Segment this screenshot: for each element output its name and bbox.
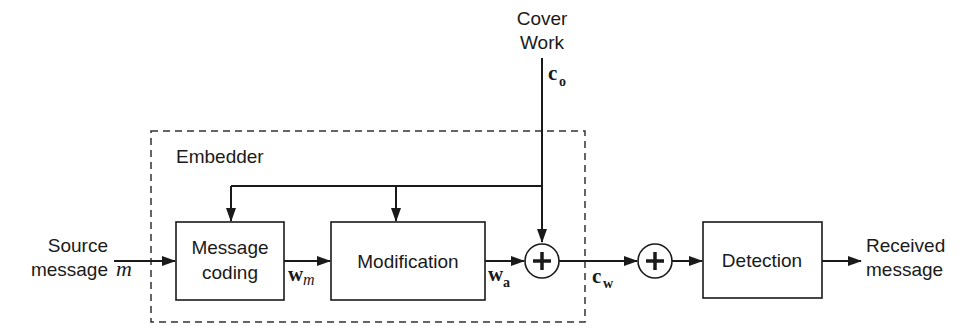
- noise-adder: [638, 244, 672, 278]
- svg-text:o: o: [559, 74, 566, 89]
- svg-text:Received: Received: [866, 235, 945, 256]
- embedder-label: Embedder: [176, 146, 264, 167]
- received-message-label: Received message: [866, 235, 945, 280]
- modification-block: Modification: [331, 222, 485, 300]
- svg-text:Work: Work: [520, 32, 564, 53]
- svg-text:coding: coding: [202, 262, 258, 283]
- cw-symbol: c w: [592, 264, 614, 291]
- svg-text:m: m: [303, 271, 315, 288]
- svg-text:c: c: [592, 264, 601, 288]
- detection-block: Detection: [703, 222, 822, 298]
- embedding-adder: [525, 244, 559, 278]
- wa-symbol: w a: [488, 262, 510, 290]
- source-message-label: Source message: [31, 235, 108, 280]
- svg-text:message: message: [866, 259, 943, 280]
- svg-text:Message: Message: [191, 237, 268, 258]
- svg-text:c: c: [548, 61, 557, 85]
- svg-text:Detection: Detection: [722, 250, 802, 271]
- cover-work-input: Cover Work: [517, 8, 568, 53]
- wm-symbol: w m: [288, 262, 315, 288]
- svg-text:w: w: [288, 262, 304, 286]
- svg-text:Source: Source: [48, 235, 108, 256]
- diagram-canvas: Embedder Cover Work c o Source message m…: [0, 0, 971, 336]
- svg-text:message: message: [31, 259, 108, 280]
- svg-text:Modification: Modification: [357, 251, 458, 272]
- svg-text:Cover: Cover: [517, 8, 568, 29]
- message-coding-block: Message coding: [176, 222, 284, 300]
- svg-text:w: w: [488, 262, 504, 286]
- svg-text:w: w: [603, 276, 614, 291]
- source-message-symbol: m: [116, 256, 132, 281]
- svg-text:a: a: [503, 275, 510, 290]
- cover-work-symbol: c o: [548, 61, 566, 89]
